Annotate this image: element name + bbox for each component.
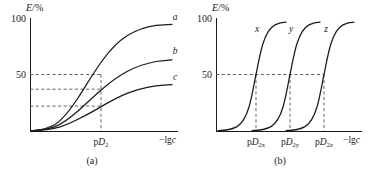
y-tick-label-100-b: 100 — [197, 13, 212, 24]
x-tick-pd2y-sub: 2y — [293, 141, 300, 148]
x-axis-prefix-b: −lg — [343, 135, 356, 145]
y-axis-symbol-a: E — [25, 2, 32, 13]
y-tick-label-100-a: 100 — [11, 13, 26, 24]
y-axis-unit-b: /% — [218, 2, 229, 13]
curve-label-y: y — [288, 24, 294, 34]
x-tick-pd2-d: D — [97, 137, 105, 147]
x-tick-pd2x-d: D — [251, 137, 259, 147]
panel-caption-b: (b) — [274, 155, 286, 167]
y-tick-label-50-a: 50 — [16, 69, 26, 80]
x-tick-label-pd2x: pD2x — [247, 137, 266, 148]
x-tick-pd2z-sub: 2z — [327, 141, 333, 148]
panel-caption-a: (a) — [86, 155, 97, 167]
x-tick-label-pd2y: pD2y — [281, 137, 300, 148]
curve-label-b: b — [173, 46, 178, 56]
curve-label-z: z — [323, 24, 328, 34]
x-tick-label-pd2z: pD2z — [315, 137, 333, 148]
y-axis-unit-a: /% — [32, 2, 43, 13]
x-axis-var-b: c — [356, 135, 361, 145]
chart-svg-b: 100 50 E/% pD2x pD2y pD2z −lgc x y — [185, 0, 369, 173]
x-axis-title-a: −lgc — [159, 135, 177, 145]
chart-panel-a: 100 50 E/% pD2 −lgc a b c (a) — [0, 0, 185, 173]
x-axis-prefix-a: −lg — [159, 135, 172, 145]
x-tick-pd2z-d: D — [319, 137, 327, 147]
x-axis-var-a: c — [172, 135, 177, 145]
curve-x — [218, 22, 286, 131]
axis-lines-a — [30, 18, 178, 131]
chart-svg-a: 100 50 E/% pD2 −lgc a b c (a) — [0, 0, 185, 173]
x-axis-title-b: −lgc — [343, 135, 361, 145]
x-tick-pd2x-sub: 2x — [259, 141, 266, 148]
curve-a — [31, 24, 172, 131]
curve-label-c: c — [173, 72, 178, 82]
curve-label-a: a — [173, 12, 178, 22]
y-axis-title-a: E/% — [25, 2, 43, 13]
curve-b — [31, 60, 172, 131]
curve-c — [31, 85, 172, 131]
y-tick-label-50-b: 50 — [202, 69, 212, 80]
y-axis-title-b: E/% — [211, 2, 229, 13]
x-tick-pd2y-d: D — [285, 137, 293, 147]
x-tick-pd2-sub: 2 — [105, 141, 108, 148]
y-axis-symbol-b: E — [211, 2, 218, 13]
chart-panel-b: 100 50 E/% pD2x pD2y pD2z −lgc x y — [185, 0, 369, 173]
figure-root: 100 50 E/% pD2 −lgc a b c (a) — [0, 0, 369, 173]
curve-z — [286, 22, 354, 131]
curve-y — [252, 22, 320, 131]
curve-label-x: x — [254, 24, 260, 34]
x-tick-label-pd2: pD2 — [94, 137, 109, 148]
